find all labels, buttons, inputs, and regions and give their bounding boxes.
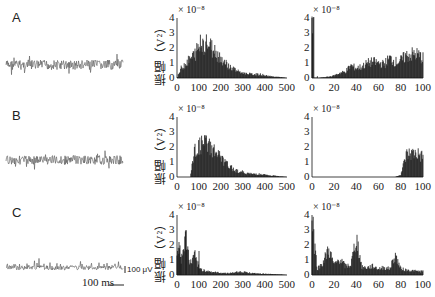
y-tick-label: 1 — [304, 57, 310, 68]
x-tick-label: 200 — [213, 82, 230, 93]
x-tick-label: 500 — [279, 82, 296, 93]
x-tick-label: 100 — [191, 279, 208, 290]
y-tick-label: 3 — [169, 27, 175, 38]
y-tick-label: 2 — [304, 239, 310, 250]
spectrum-plot-b-narrow — [310, 115, 431, 181]
x-tick-label: 400 — [257, 82, 274, 93]
y-axis-exponent: × 10⁻⁸ — [313, 103, 340, 114]
x-tick-label: 200 — [213, 279, 230, 290]
x-tick-label: 500 — [279, 279, 296, 290]
x-tick-label: 80 — [395, 279, 406, 290]
x-tick-label: 0 — [174, 279, 180, 290]
x-tick-label: 0 — [174, 82, 180, 93]
y-tick-label: 1 — [169, 254, 175, 265]
x-tick-label: 0 — [309, 279, 315, 290]
y-axis-exponent: × 10⁻⁸ — [313, 201, 340, 212]
y-axis-exponent: × 10⁻⁸ — [313, 4, 340, 15]
spectrum-plot-b-wide — [175, 115, 295, 181]
y-tick-label: 4 — [169, 111, 175, 122]
y-tick-label: 2 — [169, 239, 175, 250]
x-tick-label: 80 — [395, 181, 406, 192]
x-tick-label: 60 — [373, 279, 384, 290]
y-tick-label: 1 — [169, 156, 175, 167]
x-tick-label: 300 — [235, 181, 252, 192]
y-axis-exponent: × 10⁻⁸ — [178, 103, 205, 114]
spectrum-plot-a-narrow — [310, 16, 431, 82]
y-axis-label: 振幅（V²） — [152, 20, 169, 86]
y-tick-label: 2 — [304, 42, 310, 53]
y-axis-label: 振幅（V²） — [152, 217, 169, 283]
y-tick-label: 1 — [169, 57, 175, 68]
x-tick-label: 0 — [309, 181, 315, 192]
x-tick-label: 100 — [415, 181, 432, 192]
time-scale-label: 100 ms — [82, 276, 114, 288]
x-tick-label: 20 — [329, 279, 340, 290]
x-tick-label: 60 — [373, 181, 384, 192]
x-tick-label: 40 — [351, 181, 362, 192]
y-axis-exponent: × 10⁻⁸ — [178, 201, 205, 212]
x-tick-label: 400 — [257, 279, 274, 290]
y-tick-label: 3 — [304, 224, 310, 235]
y-tick-label: 2 — [304, 141, 310, 152]
y-tick-label: 4 — [304, 12, 310, 23]
y-tick-label: 3 — [169, 224, 175, 235]
y-tick-label: 1 — [304, 156, 310, 167]
x-tick-label: 500 — [279, 181, 296, 192]
x-tick-label: 400 — [257, 181, 274, 192]
voltage-scale-label: 100 μV — [127, 265, 153, 274]
x-tick-label: 100 — [191, 181, 208, 192]
x-tick-label: 80 — [395, 82, 406, 93]
x-tick-label: 200 — [213, 181, 230, 192]
spectrum-plot-a-wide — [175, 16, 295, 82]
x-tick-label: 300 — [235, 279, 252, 290]
x-tick-label: 100 — [191, 82, 208, 93]
y-tick-label: 2 — [169, 42, 175, 53]
x-tick-label: 0 — [309, 82, 315, 93]
spectrum-plot-c-narrow — [310, 213, 431, 279]
y-axis-label: 振幅（V²） — [152, 119, 169, 185]
x-tick-label: 20 — [329, 181, 340, 192]
x-tick-label: 100 — [415, 279, 432, 290]
spectrum-plot-c-wide — [175, 213, 295, 279]
y-tick-label: 3 — [304, 27, 310, 38]
y-tick-label: 1 — [304, 254, 310, 265]
x-tick-label: 0 — [174, 181, 180, 192]
y-tick-label: 4 — [304, 209, 310, 220]
y-tick-label: 4 — [169, 209, 175, 220]
x-tick-label: 60 — [373, 82, 384, 93]
x-tick-label: 100 — [415, 82, 432, 93]
x-tick-label: 20 — [329, 82, 340, 93]
y-axis-exponent: × 10⁻⁸ — [178, 4, 205, 15]
y-tick-label: 3 — [169, 126, 175, 137]
x-tick-label: 40 — [351, 279, 362, 290]
x-tick-label: 300 — [235, 82, 252, 93]
y-tick-label: 3 — [304, 126, 310, 137]
y-tick-label: 4 — [304, 111, 310, 122]
y-tick-label: 4 — [169, 12, 175, 23]
y-tick-label: 2 — [169, 141, 175, 152]
x-tick-label: 40 — [351, 82, 362, 93]
